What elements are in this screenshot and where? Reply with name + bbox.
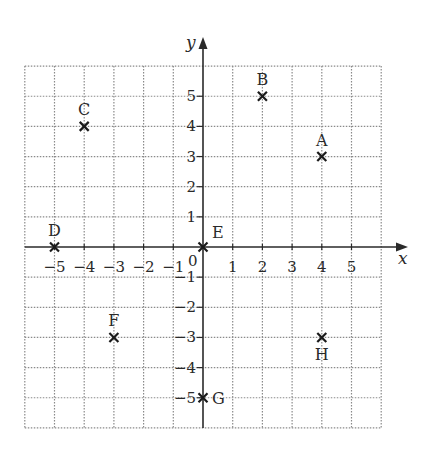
point-label: G — [212, 389, 225, 408]
y-tick-label: −1 — [174, 268, 196, 286]
x-tick-label: −4 — [73, 258, 95, 276]
x-tick-label: 3 — [287, 258, 297, 276]
coordinate-plane: x y 0 −5−4−3−2−112345−5−4−3−2−112345 ABC… — [0, 0, 432, 454]
x-tick-label: −2 — [133, 258, 155, 276]
y-tick-label: 4 — [186, 117, 196, 135]
y-axis-label: y — [185, 32, 196, 52]
y-tick-label: 5 — [186, 87, 196, 105]
point-label: B — [257, 70, 269, 89]
x-tick-label: 5 — [347, 258, 357, 276]
y-tick-label: −3 — [174, 328, 196, 346]
y-tick-label: 1 — [186, 208, 196, 226]
y-tick-label: −5 — [174, 389, 196, 407]
coordinate-plane-figure: x y 0 −5−4−3−2−112345−5−4−3−2−112345 ABC… — [0, 0, 432, 454]
x-tick-label: 1 — [228, 258, 238, 276]
y-tick-label: −2 — [174, 298, 196, 316]
y-tick-label: 3 — [186, 148, 196, 166]
x-tick-label: −5 — [43, 258, 65, 276]
point-label: D — [48, 221, 61, 240]
x-tick-label: 2 — [258, 258, 268, 276]
point-label: H — [315, 345, 329, 364]
y-axis-arrowhead-icon — [199, 37, 208, 49]
y-tick-label: 2 — [186, 178, 196, 196]
point-label: F — [108, 311, 119, 330]
point-b: B — [257, 70, 269, 101]
point-label: E — [212, 223, 224, 242]
point-label: C — [78, 100, 90, 119]
x-axis-label: x — [398, 248, 408, 268]
x-tick-label: 4 — [317, 258, 327, 276]
y-tick-label: −4 — [174, 359, 196, 377]
point-label: A — [315, 131, 328, 150]
x-tick-label: −3 — [103, 258, 125, 276]
